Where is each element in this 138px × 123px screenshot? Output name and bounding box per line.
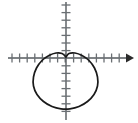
x-axis-arrow-icon — [126, 54, 134, 63]
x-axis-group — [8, 54, 134, 63]
y-axis-group — [62, 2, 71, 120]
plot-canvas — [0, 0, 138, 123]
cardioid-plot-figure: Cardioid curve on coordinate axes — [0, 0, 138, 123]
